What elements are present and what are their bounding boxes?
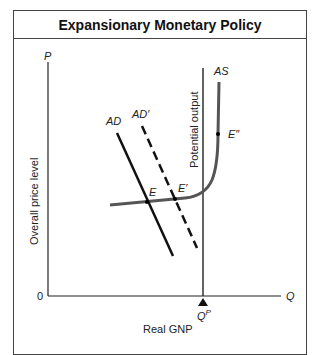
potential-output-label: Potential output bbox=[188, 92, 200, 168]
y-axis-title: Overall price level bbox=[28, 158, 40, 245]
point-e-label: E bbox=[149, 186, 157, 198]
point-e-prime bbox=[173, 197, 177, 201]
x-axis-label: Q bbox=[286, 290, 295, 302]
as-label: AS bbox=[213, 65, 229, 77]
qp-label: QP bbox=[197, 308, 212, 322]
qp-marker-icon bbox=[198, 298, 208, 306]
y-axis-label: P bbox=[44, 50, 52, 62]
ad-prime-label: AD′ bbox=[131, 108, 150, 120]
origin-label: 0 bbox=[37, 290, 43, 302]
point-e-double-prime-label: E″ bbox=[228, 128, 240, 140]
point-e-double-prime bbox=[216, 132, 220, 136]
ad-label: AD bbox=[105, 115, 121, 127]
ad-curve bbox=[117, 133, 173, 256]
point-e-prime-label: E′ bbox=[178, 182, 188, 194]
x-axis-title: Real GNP bbox=[143, 323, 193, 335]
point-e bbox=[145, 200, 149, 204]
